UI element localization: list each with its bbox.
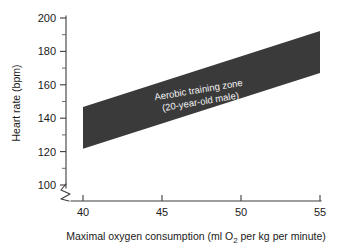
- y-tick-label-100: 100: [38, 179, 56, 191]
- x-axis-title-before: Maximal oxygen consumption (ml O: [66, 230, 233, 242]
- y-tick-label-140: 140: [38, 112, 56, 124]
- chart-canvas: 200 180 160 140 120 100 40 45 50 55 Aero…: [0, 0, 339, 251]
- x-axis-title-after: per kg per minute): [238, 230, 326, 242]
- y-tick-label-120: 120: [38, 146, 56, 158]
- y-tick-label-180: 180: [38, 45, 56, 57]
- y-axis-title: Heart rate (bpm): [10, 64, 22, 141]
- x-tick-label-55: 55: [314, 206, 326, 218]
- y-tick-label-160: 160: [38, 79, 56, 91]
- x-axis-ticks: [83, 195, 320, 201]
- y-tick-label-200: 200: [38, 12, 56, 24]
- x-tick-label-40: 40: [77, 206, 89, 218]
- x-axis-title: Maximal oxygen consumption (ml O2 per kg…: [66, 230, 325, 245]
- x-tick-label-50: 50: [235, 206, 247, 218]
- x-tick-label-45: 45: [156, 206, 168, 218]
- y-axis-minor-ticks: [62, 35, 66, 169]
- chart-figure: 200 180 160 140 120 100 40 45 50 55 Aero…: [0, 0, 339, 251]
